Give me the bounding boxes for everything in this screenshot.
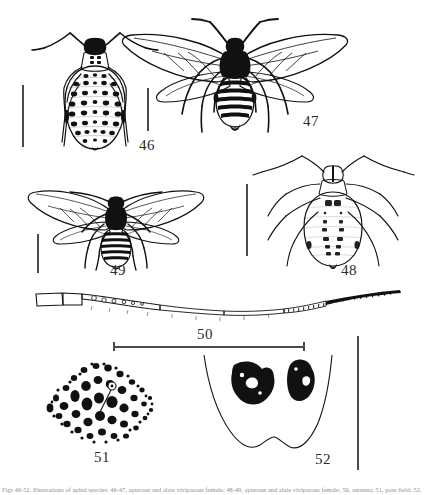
scale-bar-figure-46 — [22, 85, 24, 147]
illustration-plate: 46 — [0, 0, 425, 495]
figure-label-49: 49 — [110, 263, 126, 278]
scale-bar-figure-48 — [246, 184, 248, 256]
figure-50-drawing — [32, 288, 407, 324]
scale-bar-figure-50-right-cap — [303, 342, 305, 351]
figure-48-drawing — [252, 150, 417, 275]
plate-caption: Figs 46-52. Illustrations of aphid speci… — [2, 486, 423, 495]
figure-label-50: 50 — [197, 327, 213, 342]
figure-label-48: 48 — [341, 263, 357, 278]
figure-label-52: 52 — [315, 452, 331, 467]
figure-label-46: 46 — [139, 138, 155, 153]
figure-52-drawing — [198, 353, 343, 465]
scale-bar-figure-49 — [37, 234, 39, 273]
scale-bar-figures-51-52 — [357, 336, 359, 470]
figure-label-51: 51 — [94, 450, 110, 465]
scale-bar-figure-50 — [113, 346, 305, 348]
figure-51-drawing — [40, 358, 165, 450]
figure-49-drawing — [22, 180, 212, 270]
scale-bar-figure-47 — [147, 88, 149, 131]
figure-label-47: 47 — [303, 114, 319, 129]
scale-bar-figure-50-left-cap — [113, 342, 115, 351]
